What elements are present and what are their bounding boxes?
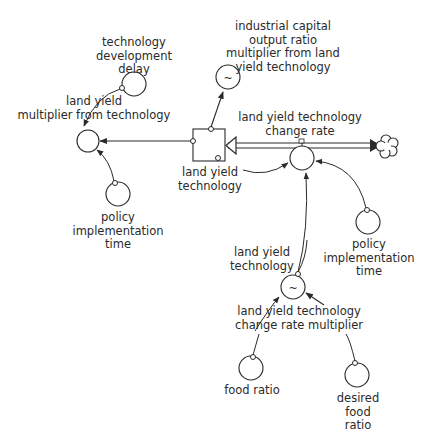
converter-policy-implementation-time-left[interactable] bbox=[106, 182, 130, 206]
cloud-icon bbox=[376, 135, 398, 158]
converter-change-rate[interactable] bbox=[290, 146, 314, 170]
label-technology-development-delay: technology development delay bbox=[96, 36, 172, 77]
label-change-rate-multiplier: land yield technology change rate multip… bbox=[235, 305, 363, 332]
converter-desired-food-ratio[interactable] bbox=[345, 363, 369, 387]
label-policy-implementation-time-left: policy implementation time bbox=[72, 211, 163, 252]
stock-flow-diagram: ~ ~ bbox=[0, 0, 428, 434]
label-land-yield-technology-stock: land yield technology bbox=[178, 166, 242, 193]
lookup-icon: ~ bbox=[288, 282, 297, 295]
label-change-rate: land yield technology change rate bbox=[238, 111, 362, 138]
converter-land-yield-multiplier[interactable] bbox=[77, 130, 99, 152]
label-desired-food-ratio: desired food ratio bbox=[323, 392, 393, 433]
valve-icon bbox=[299, 139, 304, 143]
flow-arrow-icon bbox=[226, 137, 236, 154]
converter-food-ratio[interactable] bbox=[239, 356, 263, 380]
label-land-yield-multiplier: land yield multiplier from technology bbox=[18, 95, 171, 122]
label-icor-multiplier: industrial capital output ratio multipli… bbox=[226, 20, 340, 74]
converter-policy-implementation-time-right[interactable] bbox=[356, 210, 380, 234]
label-land-yield-technology-ghost: land yield technology bbox=[230, 246, 294, 273]
label-food-ratio: food ratio bbox=[224, 384, 280, 398]
label-policy-implementation-time-right: policy implementation time bbox=[323, 238, 414, 279]
